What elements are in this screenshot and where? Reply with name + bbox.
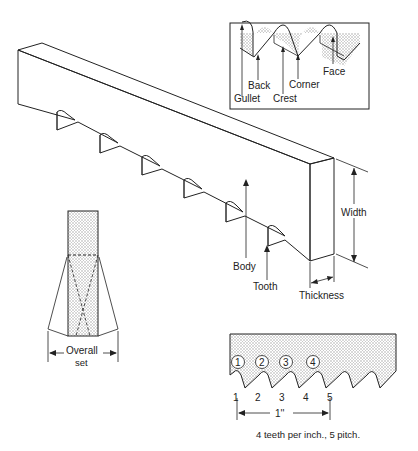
tooth-label: Tooth [253,281,277,292]
corner-label: Corner [289,79,320,90]
thickness-label: Thickness [299,290,344,301]
back-label: Back [248,80,271,91]
body-label: Body [233,261,256,272]
pitch-point-4: 4 [303,392,309,403]
saw-blade-diagram: Width Thickness Body Tooth Face Back Cor… [0,0,418,451]
face-label: Face [323,66,346,77]
pitch-point-5: 5 [327,392,333,403]
blade-end-face [310,158,334,261]
circled-tooth-4: 4 [310,357,316,368]
circled-tooth-1: 1 [235,357,241,368]
gullet-label: Gullet [234,93,260,104]
overall-set-view [48,211,118,362]
circled-tooth-2: 2 [259,357,265,368]
thickness-dimension [310,256,334,288]
width-label: Width [341,207,367,218]
overall-set-label-1: Overall [66,345,98,356]
pitch-caption: 4 teeth per inch., 5 pitch. [256,429,360,440]
overall-set-label-2: set [75,357,88,368]
pitch-diagram [230,334,396,420]
pitch-point-3: 3 [279,392,285,403]
pitch-point-2: 2 [255,392,261,403]
crest-label: Crest [273,93,297,104]
circled-tooth-3: 3 [283,357,289,368]
one-inch-label: 1'' [275,408,284,419]
pitch-point-1: 1 [233,392,239,403]
